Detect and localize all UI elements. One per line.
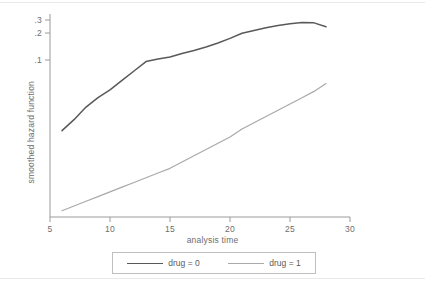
chart-legend: drug = 0 drug = 1 [112, 252, 316, 274]
series-line-drug-0 [62, 23, 326, 131]
legend-entry-drug-1[interactable]: drug = 1 [228, 259, 300, 268]
y-tick-label-0: .3 [20, 16, 42, 25]
x-tick-label-4: 25 [277, 225, 303, 234]
legend-swatch-drug-0 [127, 263, 163, 264]
x-tick-label-3: 20 [217, 225, 243, 234]
legend-label-drug-0: drug = 0 [168, 259, 199, 268]
x-tick-label-0: 5 [37, 225, 63, 234]
y-axis-title: smoothed hazard function [27, 47, 36, 217]
legend-entry-drug-0[interactable]: drug = 0 [127, 259, 199, 268]
y-tick-label-1: .2 [20, 29, 42, 38]
x-tick-label-5: 30 [337, 225, 363, 234]
hazard-function-chart: .3 .2 .1 5 10 15 20 25 30 analysis time … [0, 0, 425, 296]
legend-label-drug-1: drug = 1 [269, 259, 300, 268]
legend-swatch-drug-1 [228, 263, 264, 264]
x-tick-label-2: 15 [157, 225, 183, 234]
x-tick-label-1: 10 [97, 225, 123, 234]
x-axis-title: analysis time [0, 236, 425, 245]
series-line-drug-1 [62, 84, 326, 211]
